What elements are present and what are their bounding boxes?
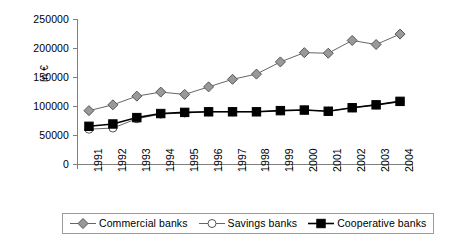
series-cooperative-banks — [85, 97, 404, 130]
data-point — [133, 113, 141, 121]
legend-entry[interactable]: Cooperative banks — [308, 218, 426, 229]
data-point — [348, 104, 356, 112]
data-point — [157, 109, 165, 117]
legend-entry[interactable]: Savings banks — [199, 218, 298, 229]
legend-entry[interactable]: Commercial banks — [70, 218, 188, 229]
data-point — [347, 35, 357, 45]
data-point — [228, 74, 238, 84]
data-point — [132, 91, 142, 101]
data-point — [156, 87, 166, 97]
data-point — [252, 108, 260, 116]
data-point — [276, 106, 284, 114]
legend-marker-square-icon — [308, 218, 334, 229]
data-point — [275, 57, 285, 67]
data-point — [204, 82, 214, 92]
data-point — [204, 108, 212, 116]
data-point — [180, 89, 190, 99]
line-chart: in € 050000100000150000200000250000 1991… — [0, 0, 451, 245]
data-point — [251, 69, 261, 79]
data-point — [180, 108, 188, 116]
series-commercial-banks — [84, 29, 405, 116]
data-point — [299, 48, 309, 58]
chart-legend: Commercial banksSavings banksCooperative… — [62, 213, 434, 234]
series-plot — [0, 0, 451, 245]
data-point — [371, 40, 381, 50]
legend-label: Commercial banks — [99, 218, 188, 229]
data-point — [395, 29, 405, 39]
data-point — [108, 100, 118, 110]
legend-marker-diamond-icon — [70, 218, 96, 229]
legend-label: Cooperative banks — [337, 218, 426, 229]
legend-marker-circle-icon — [199, 218, 225, 229]
data-point — [109, 120, 117, 128]
data-point — [372, 101, 380, 109]
data-point — [85, 122, 93, 130]
data-point — [228, 108, 236, 116]
legend-label: Savings banks — [228, 218, 298, 229]
data-point — [324, 107, 332, 115]
data-point — [323, 48, 333, 58]
data-point — [396, 97, 404, 105]
data-point — [84, 106, 94, 116]
data-point — [300, 106, 308, 114]
